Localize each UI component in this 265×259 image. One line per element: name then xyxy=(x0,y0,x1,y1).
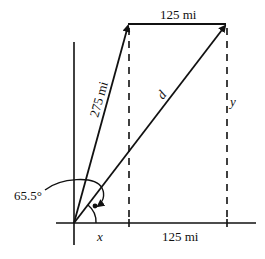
label-angle: 65.5° xyxy=(14,188,42,203)
label-top-125mi: 125 mi xyxy=(160,7,197,22)
vector-275mi xyxy=(74,26,128,223)
label-d: d xyxy=(154,87,170,102)
angle-vertex-dot xyxy=(93,204,98,209)
label-y: y xyxy=(228,94,236,109)
vector-diagram: 125 mi 275 mi d y 65.5° x 125 mi xyxy=(0,0,265,259)
vector-d xyxy=(74,26,225,223)
label-bottom-125mi: 125 mi xyxy=(162,229,199,244)
label-x: x xyxy=(96,229,103,244)
